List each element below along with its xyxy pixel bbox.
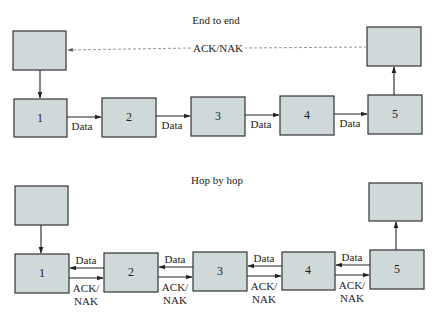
e2e-source-box bbox=[13, 31, 66, 70]
svg-text:4: 4 bbox=[304, 108, 310, 122]
e2e-node-5: 5 bbox=[368, 95, 422, 134]
hbh-data-label-1-2: Data bbox=[76, 254, 97, 266]
svg-text:1: 1 bbox=[39, 266, 45, 280]
hbh-ack-label-4-5-line1: ACK/ bbox=[339, 279, 366, 291]
svg-text:5: 5 bbox=[392, 107, 398, 121]
hbh-ack-label-3-4-line2: NAK bbox=[252, 293, 276, 305]
hbh-ack-label-3-4-line1: ACK/ bbox=[251, 280, 278, 292]
hbh-data-label-2-3: Data bbox=[165, 253, 186, 265]
e2e-ack-arrow bbox=[68, 48, 191, 50]
e2e-data-label-3-4: Data bbox=[251, 118, 272, 130]
e2e-data-label-1-2: Data bbox=[72, 120, 93, 132]
hbh-data-label-3-4: Data bbox=[254, 252, 275, 264]
hbh-node-1: 1 bbox=[15, 254, 69, 293]
svg-text:3: 3 bbox=[217, 264, 223, 278]
end-to-end-section: End to end ACK/NAK 1 2 3 4 bbox=[13, 14, 422, 137]
hbh-ack-label-4-5-line2: NAK bbox=[340, 292, 364, 304]
e2e-data-label-4-5: Data bbox=[340, 117, 361, 129]
e2e-ack-label: ACK/NAK bbox=[193, 42, 243, 54]
hbh-ack-label-2-3-line2: NAK bbox=[163, 294, 187, 306]
svg-text:1: 1 bbox=[37, 111, 43, 125]
e2e-node-2: 2 bbox=[102, 98, 156, 137]
hbh-source-box bbox=[15, 186, 68, 225]
svg-text:4: 4 bbox=[305, 263, 311, 277]
e2e-destination-box bbox=[367, 27, 421, 66]
hbh-ack-label-1-2-line1: ACK/ bbox=[73, 282, 100, 294]
hop-by-hop-section: Hop by hop 1 2 3 4 5 Data bbox=[15, 174, 424, 307]
hbh-ack-label-1-2-line2: NAK bbox=[74, 295, 98, 307]
hbh-node-5: 5 bbox=[370, 250, 424, 289]
hbh-node-4: 4 bbox=[282, 252, 335, 290]
svg-text:2: 2 bbox=[126, 110, 132, 124]
hbh-ack-label-2-3-line1: ACK/ bbox=[162, 281, 189, 293]
svg-text:3: 3 bbox=[215, 109, 221, 123]
hbh-destination-box bbox=[369, 183, 422, 221]
svg-text:2: 2 bbox=[128, 265, 134, 279]
hop-by-hop-title: Hop by hop bbox=[191, 174, 243, 186]
hbh-data-label-4-5: Data bbox=[342, 251, 363, 263]
e2e-node-3: 3 bbox=[191, 97, 245, 136]
e2e-ack-line-right bbox=[245, 47, 367, 48]
end-to-end-title: End to end bbox=[192, 14, 240, 26]
svg-text:5: 5 bbox=[394, 262, 400, 276]
hbh-node-3: 3 bbox=[193, 252, 247, 291]
e2e-data-label-2-3: Data bbox=[162, 119, 183, 131]
e2e-node-1: 1 bbox=[14, 99, 67, 137]
hbh-node-2: 2 bbox=[104, 253, 158, 292]
flow-control-diagram: End to end ACK/NAK 1 2 3 4 bbox=[0, 0, 436, 316]
e2e-node-4: 4 bbox=[280, 96, 334, 135]
